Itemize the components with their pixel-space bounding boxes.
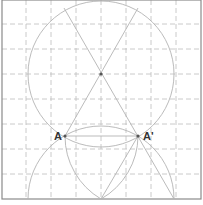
- point-A: [63, 134, 66, 137]
- construction-points: [63, 72, 139, 137]
- label-A: A: [54, 130, 62, 142]
- geometry-diagram: A A': [0, 0, 203, 205]
- diagram-canvas: A A': [0, 0, 203, 205]
- line-A-prime-to-bottom: [101, 136, 138, 199]
- dashed-grid: [2, 0, 201, 199]
- point-A-prime: [136, 134, 139, 137]
- label-A-prime: A': [143, 130, 154, 142]
- arc-centered-A-prime: [65, 136, 101, 199]
- diagram-frame: [2, 0, 201, 199]
- diagonal-from-top-left: [64, 8, 174, 199]
- center-point: [99, 72, 102, 75]
